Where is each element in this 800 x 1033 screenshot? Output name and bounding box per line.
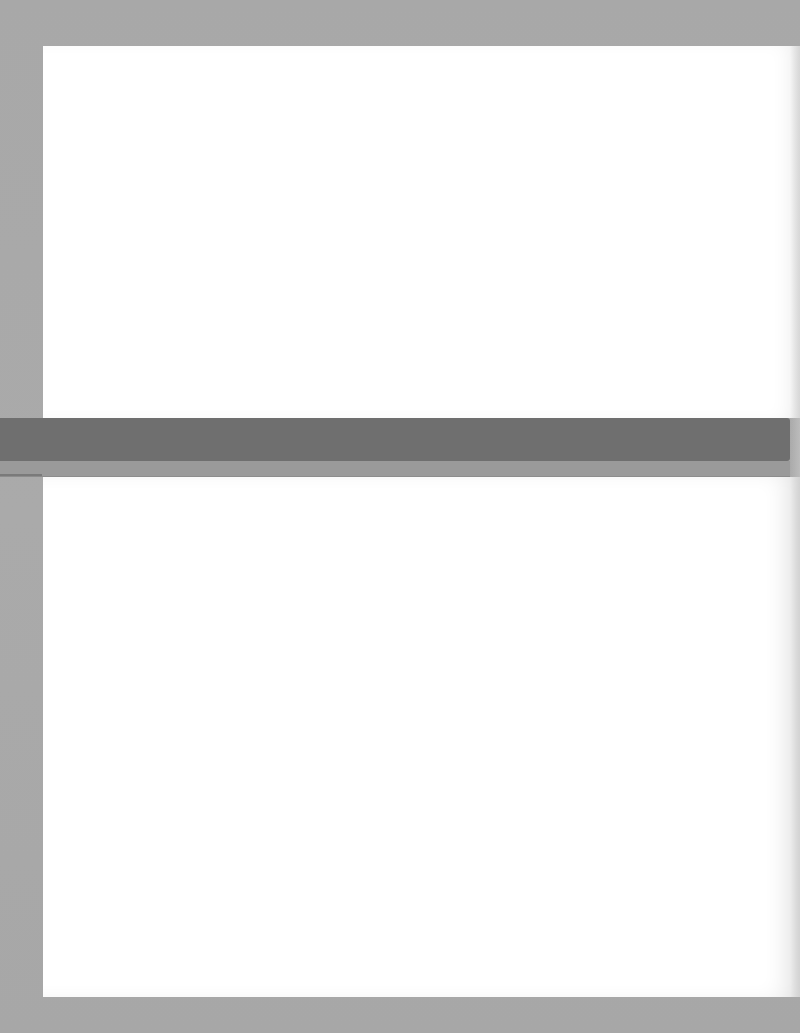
blank-page-upper-region — [43, 46, 800, 418]
separator-band-dark — [0, 418, 790, 461]
separator-band-light — [0, 461, 790, 477]
blank-page-lower-region — [43, 477, 800, 997]
separator-band-edge — [0, 474, 42, 476]
page-edge-shadow — [790, 46, 800, 997]
